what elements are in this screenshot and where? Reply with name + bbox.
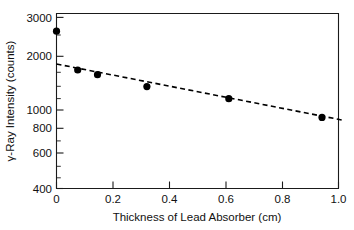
data-point [74, 66, 81, 73]
x-axis-ticks [57, 182, 339, 189]
axis-frame-path [57, 14, 339, 189]
y-tick-label-400: 400 [33, 183, 52, 195]
x-tick-label-1-0: 1.0 [331, 193, 347, 205]
x-tick-label-0-2: 0.2 [105, 193, 121, 205]
data-point [143, 83, 150, 90]
data-point [318, 114, 325, 121]
y-tick-label-800: 800 [33, 122, 52, 134]
plot-canvas: 3000 2000 1000 800 600 400 0 0.2 0.4 0.6… [0, 0, 354, 230]
x-tick-label-0: 0 [53, 193, 59, 205]
y-axis-major-ticks [57, 17, 64, 188]
data-point [53, 28, 60, 35]
x-tick-label-0-8: 0.8 [275, 193, 291, 205]
y-axis-title: γ-Ray Intensity (counts) [4, 40, 16, 161]
y-tick-labels: 3000 2000 1000 800 600 400 [26, 12, 52, 195]
x-axis-title: Thickness of Lead Absorber (cm) [113, 211, 282, 223]
y-tick-label-2000: 2000 [26, 50, 52, 62]
y-tick-label-3000: 3000 [26, 12, 52, 24]
y-tick-label-600: 600 [33, 147, 52, 159]
data-point-group [53, 28, 326, 121]
x-tick-label-0-4: 0.4 [162, 193, 179, 205]
x-tick-labels: 0 0.2 0.4 0.6 0.8 1.0 [53, 193, 346, 205]
y-tick-label-1000: 1000 [26, 104, 52, 116]
axes-frame [57, 14, 339, 189]
data-point [225, 95, 232, 102]
data-point [94, 71, 101, 78]
gamma-ray-attenuation-chart: 3000 2000 1000 800 600 400 0 0.2 0.4 0.6… [0, 0, 354, 230]
x-tick-label-0-6: 0.6 [218, 193, 234, 205]
